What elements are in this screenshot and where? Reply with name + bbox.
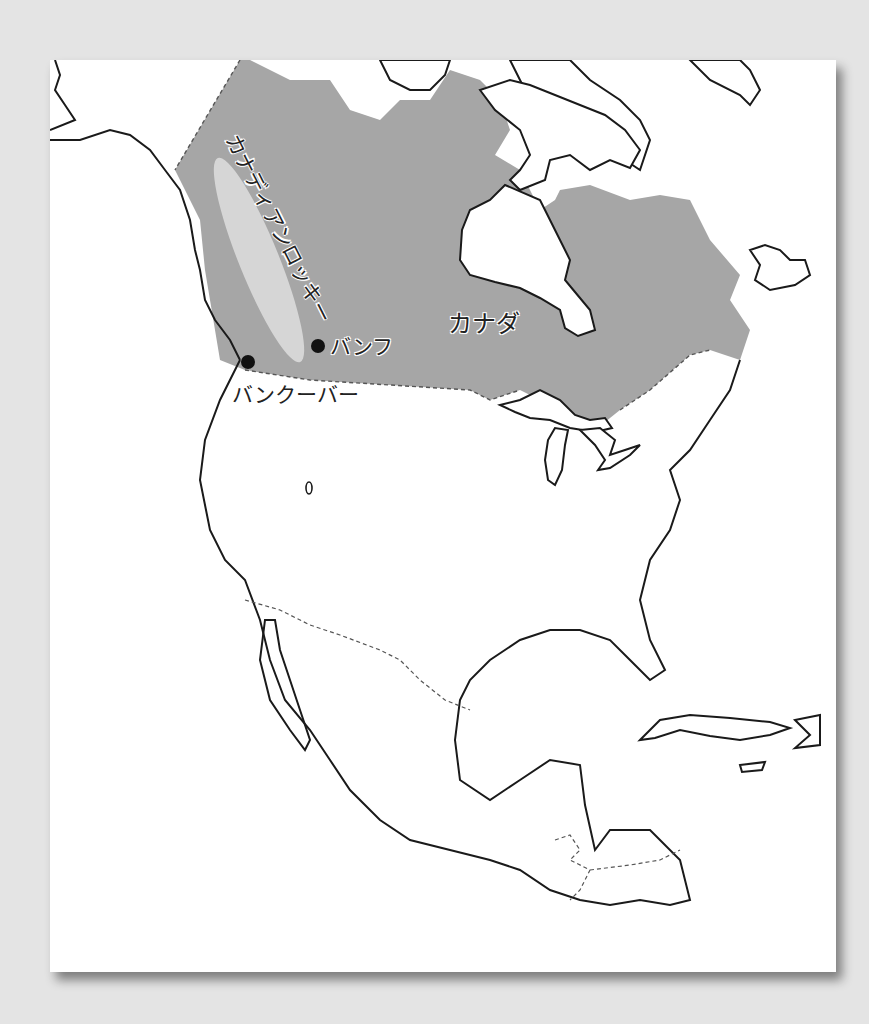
us-mexico-outline bbox=[200, 360, 740, 905]
map-card: カナダ バンフ バンクーバー カナディアンロッキー bbox=[50, 60, 836, 972]
lake-huron-erie bbox=[580, 428, 640, 470]
baja-california bbox=[260, 620, 310, 750]
newfoundland bbox=[750, 245, 810, 290]
arctic-islands-2 bbox=[380, 60, 450, 90]
us-mexico-border bbox=[245, 600, 470, 710]
label-vancouver: バンクーバー bbox=[232, 378, 359, 408]
banff-marker bbox=[311, 339, 325, 353]
label-banff: バンフ bbox=[330, 330, 393, 360]
hispaniola bbox=[795, 715, 820, 748]
greenland bbox=[690, 60, 760, 105]
alaska-west bbox=[50, 60, 75, 130]
label-canada: カナダ bbox=[448, 304, 520, 339]
jamaica bbox=[740, 762, 765, 772]
lake-michigan bbox=[545, 428, 568, 485]
central-america-borders bbox=[555, 835, 680, 900]
vancouver-marker bbox=[241, 355, 255, 369]
north-america-map bbox=[50, 60, 836, 972]
cuba bbox=[640, 715, 790, 740]
great-salt-lake bbox=[306, 482, 312, 494]
